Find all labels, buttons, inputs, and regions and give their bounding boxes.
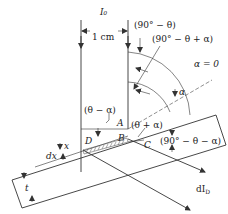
label-90-theta-minus-alpha: (90° − θ − α)	[160, 136, 221, 146]
label-1cm: 1 cm	[92, 32, 115, 42]
diffraction-diagram: I₀ 1 cm (90° − θ) (90° − θ + α) α = 0 α …	[0, 0, 228, 214]
label-theta-plus-alpha: (θ + α)	[131, 120, 163, 130]
leader-90-theta-alpha	[134, 46, 160, 89]
label-x: x	[64, 141, 69, 151]
arc-arrow-mid	[136, 90, 150, 94]
label-alpha-zero: α = 0	[194, 59, 219, 69]
label-90-theta: (90° − θ)	[134, 20, 176, 30]
label-B: B	[117, 133, 125, 143]
label-t: t	[25, 183, 29, 193]
label-I0: I₀	[99, 7, 108, 17]
label-A: A	[116, 118, 124, 128]
arc-90-theta-alpha	[128, 82, 170, 112]
label-theta-minus-alpha: (θ − α)	[84, 105, 116, 115]
label-90-theta-alpha: (90° − θ + α)	[152, 34, 213, 44]
label-dx: dx	[46, 151, 57, 161]
label-alpha: α	[179, 87, 185, 97]
label-D: D	[84, 136, 92, 146]
label-dID: dID	[196, 184, 210, 195]
label-C: C	[144, 140, 151, 150]
